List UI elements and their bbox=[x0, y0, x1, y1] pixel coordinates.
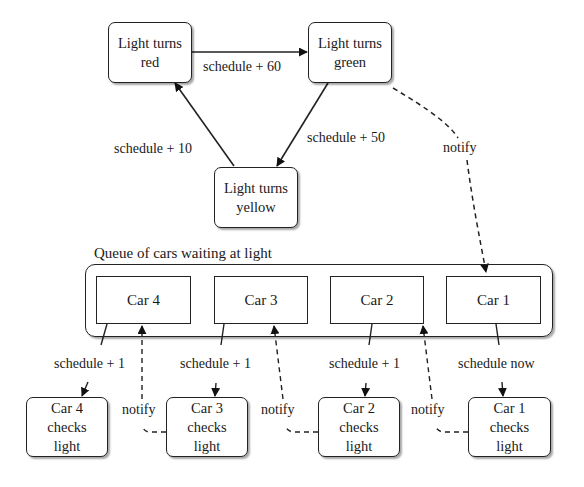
state-light-yellow-label: Light turns yellow bbox=[224, 179, 288, 217]
edge-car1-schedule-head bbox=[502, 382, 503, 396]
label-yellow-to-red: schedule + 10 bbox=[114, 141, 192, 157]
queue-car-3-label: Car 3 bbox=[245, 291, 278, 310]
check-car-2: Car 2 checks light bbox=[318, 397, 400, 457]
label-notify-car2: notify bbox=[411, 402, 444, 418]
state-light-red: Light turns red bbox=[108, 22, 192, 83]
queue-car-1: Car 1 bbox=[446, 276, 541, 324]
edge-car4-schedule-head bbox=[82, 382, 88, 396]
label-notify-car3: notify bbox=[261, 402, 294, 418]
check-car-3-label: Car 3 checks light bbox=[187, 399, 226, 456]
state-light-yellow: Light turns yellow bbox=[214, 167, 298, 228]
check-car-3: Car 3 checks light bbox=[166, 397, 248, 457]
queue-title: Queue of cars waiting at light bbox=[94, 245, 272, 262]
check-car-1-label: Car 1 checks light bbox=[490, 399, 529, 456]
edge-car2-schedule-head bbox=[365, 383, 366, 396]
queue-car-3: Car 3 bbox=[214, 276, 308, 324]
queue-car-4: Car 4 bbox=[96, 276, 191, 324]
check-car-1: Car 1 checks light bbox=[468, 397, 551, 457]
state-light-green: Light turns green bbox=[308, 22, 392, 83]
check-car-2-label: Car 2 checks light bbox=[339, 399, 378, 456]
label-car3-schedule: schedule + 1 bbox=[180, 356, 251, 372]
state-light-green-label: Light turns green bbox=[318, 34, 382, 72]
check-car-4-label: Car 4 checks light bbox=[47, 399, 86, 456]
label-car2-schedule: schedule + 1 bbox=[329, 356, 400, 372]
edge-green-notify-car1 bbox=[393, 88, 486, 272]
label-red-to-green: schedule + 60 bbox=[203, 59, 281, 75]
queue-car-4-label: Car 4 bbox=[127, 291, 160, 310]
label-green-notify: notify bbox=[443, 140, 476, 156]
edge-car3-schedule-head bbox=[215, 383, 216, 396]
queue-car-1-label: Car 1 bbox=[477, 291, 510, 310]
check-car-4: Car 4 checks light bbox=[26, 397, 108, 457]
edge-green-to-yellow bbox=[277, 83, 328, 166]
label-green-to-yellow: schedule + 50 bbox=[307, 130, 385, 146]
label-notify-car4: notify bbox=[122, 402, 155, 418]
queue-car-2: Car 2 bbox=[330, 276, 424, 324]
state-light-red-label: Light turns red bbox=[118, 34, 182, 72]
label-car4-schedule: schedule + 1 bbox=[54, 356, 125, 372]
queue-car-2-label: Car 2 bbox=[361, 291, 394, 310]
label-car1-schedule: schedule now bbox=[458, 356, 535, 372]
